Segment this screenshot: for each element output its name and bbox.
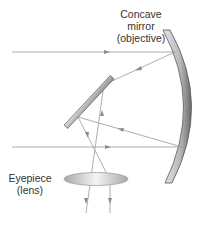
arrow-icon	[104, 50, 110, 54]
label-line: (lens)	[6, 184, 54, 196]
concave-mirror-label: Concave mirror (objective)	[103, 8, 179, 44]
arrow-icon	[105, 145, 111, 149]
label-line: mirror	[103, 20, 179, 32]
label-line: Eyepiece	[6, 172, 54, 184]
reflected-ray-bottom	[78, 117, 182, 147]
arrow-icon	[135, 66, 142, 71]
eyepiece-lens	[64, 173, 128, 186]
label-line: Concave	[103, 8, 179, 20]
label-line: (objective)	[103, 32, 179, 44]
eyepiece-label: Eyepiece (lens)	[6, 172, 54, 196]
arrow-icon	[118, 128, 124, 132]
arrow-icon	[108, 198, 112, 204]
concave-mirror	[163, 30, 192, 183]
reflected-ray-top	[110, 52, 175, 82]
diagonal-flat-mirror	[64, 75, 114, 128]
